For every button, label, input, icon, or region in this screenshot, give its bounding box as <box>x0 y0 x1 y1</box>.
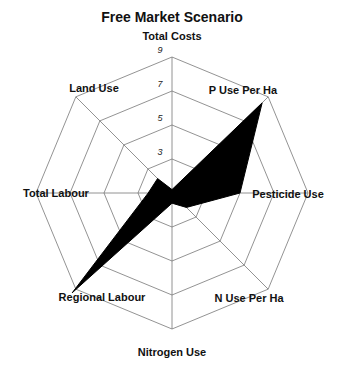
tick-label: 3 <box>157 147 162 157</box>
chart-title: Free Market Scenario <box>101 9 243 25</box>
axis-label-p-use-per-ha: P Use Per Ha <box>209 84 278 96</box>
tick-label: 9 <box>157 45 162 55</box>
radar-series <box>72 103 262 293</box>
tick-label: 5 <box>157 113 163 123</box>
axis-label-pesticide-use: Pesticide Use <box>252 188 324 200</box>
axis-label-nitrogen-use: Nitrogen Use <box>138 346 206 358</box>
series-area <box>72 103 262 293</box>
radar-chart: Free Market Scenario 3579 Total CostsP U… <box>0 0 339 375</box>
axis-label-total-labour: Total Labour <box>23 187 90 199</box>
tick-label: 7 <box>157 79 163 89</box>
axis-label-total-costs: Total Costs <box>142 30 201 42</box>
axis-label-regional-labour: Regional Labour <box>59 291 147 303</box>
axis-label-land-use: Land Use <box>69 82 119 94</box>
axis-label-n-use-per-ha: N Use Per Ha <box>214 292 284 304</box>
